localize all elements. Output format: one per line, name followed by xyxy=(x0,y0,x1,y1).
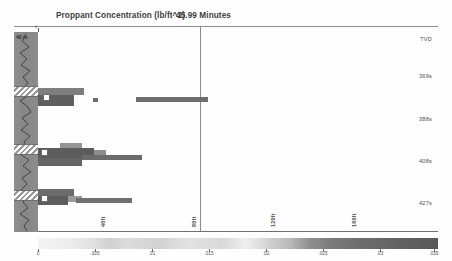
frac-bar xyxy=(82,155,142,160)
legend-tick-label: .02 xyxy=(263,251,270,256)
plot-area: 0 40 m xyxy=(14,26,438,235)
depth-tick-label: 408s xyxy=(419,158,432,164)
frac-bar xyxy=(76,198,132,203)
x-tick-label: 40ft xyxy=(100,217,106,227)
plot-mid-divider xyxy=(200,27,201,232)
color-legend: 0 .005 .01 .015 .02 .025 .03 .035 xyxy=(14,238,438,249)
proppant-concentration-chart: Proppant Concentration (lb/ft^2) 45.99 M… xyxy=(0,0,452,261)
page-title: Proppant Concentration (lb/ft^2) xyxy=(56,11,185,20)
perforation-marker xyxy=(41,195,48,202)
track-depth-label: 40 m xyxy=(16,34,27,40)
legend-tick-label: 0 xyxy=(37,251,40,256)
color-gradient-bar xyxy=(38,238,438,249)
perf-zone-2-icon xyxy=(14,144,38,155)
elapsed-time-label: 45.99 Minutes xyxy=(176,11,231,20)
origin-tick xyxy=(38,28,39,32)
legend-tick-label: .025 xyxy=(318,251,327,256)
color-legend-ticks: 0 .005 .01 .015 .02 .025 .03 .035 xyxy=(14,249,438,259)
frac-bar xyxy=(93,98,98,102)
origin-tick-label: 0 xyxy=(35,24,37,29)
depth-tick-label: 388s xyxy=(419,116,432,122)
perf-zone-1-icon xyxy=(14,86,38,97)
gamma-ray-log-curve xyxy=(14,32,38,232)
frac-cluster-3 xyxy=(38,189,138,211)
x-tick-label: 160ft xyxy=(351,213,357,227)
frac-bar xyxy=(38,158,82,166)
legend-tick-label: .035 xyxy=(429,251,438,256)
perforation-marker xyxy=(43,94,50,101)
legend-tick-label: .01 xyxy=(149,251,156,256)
x-tick-label: 120ft xyxy=(270,213,276,227)
x-tick-label: 80ft xyxy=(191,217,197,227)
plot-top-border xyxy=(14,26,438,27)
legend-tick-label: .03 xyxy=(377,251,384,256)
legend-tick-label: .015 xyxy=(204,251,213,256)
plot-bottom-axis xyxy=(38,231,438,232)
legend-tick-label: .005 xyxy=(90,251,99,256)
frac-cluster-1 xyxy=(38,88,208,106)
depth-tick-label: 369s xyxy=(419,73,432,79)
perforation-marker xyxy=(41,149,48,156)
chart-header: Proppant Concentration (lb/ft^2) 45.99 M… xyxy=(0,11,452,25)
depth-axis-header: TVD xyxy=(420,36,432,42)
frac-bar xyxy=(136,97,208,102)
frac-cluster-2 xyxy=(38,143,143,171)
perf-zone-3-icon xyxy=(14,190,38,201)
depth-tick-label: 427s xyxy=(419,200,432,206)
well-log-track: 40 m xyxy=(14,32,38,232)
